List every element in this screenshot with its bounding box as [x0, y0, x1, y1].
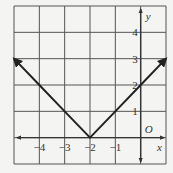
x-tick-label: −3	[59, 141, 71, 153]
axis-labels: −4−3−2−11234yxO	[33, 10, 162, 153]
x-tick-label: −1	[109, 141, 121, 153]
y-tick-label: 1	[132, 105, 138, 117]
x-tick-label: −4	[33, 141, 45, 153]
y-tick-label: 4	[132, 26, 138, 38]
x-tick-label: −2	[84, 141, 96, 153]
origin-label: O	[145, 123, 153, 135]
graph-canvas: −4−3−2−11234yxO	[0, 0, 173, 173]
x-axis-label: x	[156, 141, 162, 153]
y-tick-label: 2	[132, 79, 138, 91]
y-tick-label: 3	[132, 53, 138, 65]
y-axis-label: y	[145, 10, 151, 22]
